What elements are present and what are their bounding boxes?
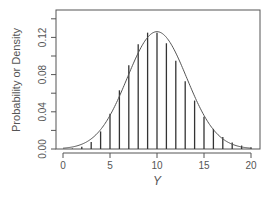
x-tick-label: 15 — [198, 160, 210, 171]
plot-frame — [56, 10, 260, 149]
chart: 0.000.040.080.12 05101520 Y Probability … — [0, 0, 270, 198]
x-tick-label: 10 — [151, 160, 163, 171]
x-axis-label: Y — [153, 174, 162, 188]
x-tick-label: 5 — [107, 160, 113, 171]
x-axis: 05101520 — [60, 153, 257, 171]
probability-spikes — [63, 33, 251, 149]
x-tick-label: 0 — [60, 160, 66, 171]
y-tick-label: 0.00 — [37, 139, 48, 159]
y-tick-label: 0.04 — [37, 102, 48, 122]
y-axis: 0.000.040.080.12 — [37, 19, 56, 159]
y-tick-label: 0.12 — [37, 27, 48, 47]
x-tick-label: 20 — [245, 160, 257, 171]
y-tick-label: 0.08 — [37, 64, 48, 84]
y-axis-label: Probability or Density — [10, 28, 22, 132]
plot-border — [56, 10, 260, 149]
